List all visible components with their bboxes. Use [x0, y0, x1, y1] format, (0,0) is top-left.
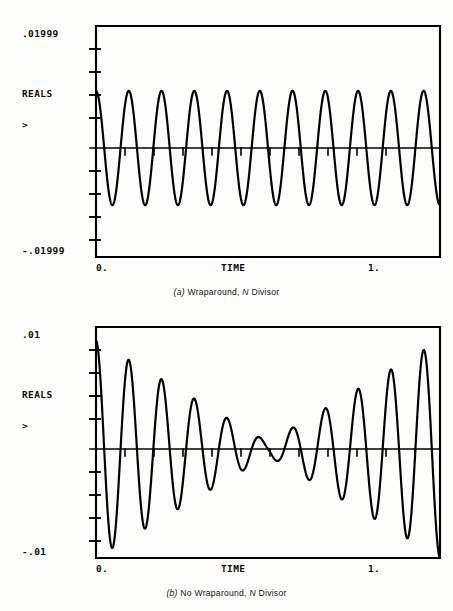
caption-italic-b: N: [249, 588, 255, 598]
caption-tail-b: Divisor: [259, 588, 287, 598]
figure-panel-b: .01 REALS > -.01 0. TIME 1.: [0, 305, 453, 611]
plot-area-b: [0, 305, 453, 611]
x-axis-ticks-a: [125, 148, 415, 155]
caption-tag-b: (b): [166, 588, 177, 598]
figure-page: .01999 REALS > -.01999 0. TIME 1.: [0, 0, 453, 611]
caption-text-b: No Wraparound,: [180, 588, 246, 598]
figure-panel-a: .01999 REALS > -.01999 0. TIME 1.: [0, 0, 453, 305]
caption-tail-a: Divisor: [251, 287, 279, 297]
caption-tag-a: (a): [174, 287, 185, 297]
caption-italic-a: N: [242, 287, 248, 297]
caption-text-a: Wraparound,: [187, 287, 239, 297]
plot-area-a: [0, 0, 453, 306]
figure-caption-b: (b) No Wraparound, N Divisor: [0, 588, 453, 598]
figure-caption-a: (a) Wraparound, N Divisor: [0, 287, 453, 297]
